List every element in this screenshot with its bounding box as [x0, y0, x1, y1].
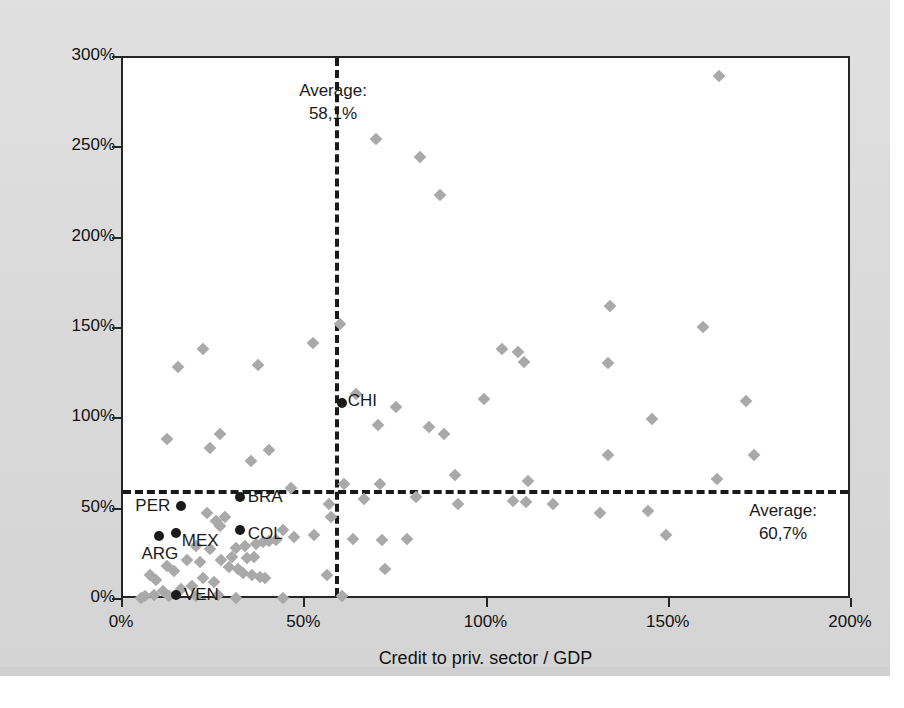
y-tick-mark: [112, 598, 121, 600]
x-tick-label: 50%: [286, 612, 320, 632]
x-tick-label: 100%: [464, 612, 507, 632]
x-tick-mark: [850, 598, 852, 607]
y-tick-mark: [112, 327, 121, 329]
data-point: [197, 342, 210, 355]
data-point: [521, 474, 534, 487]
scatter-chart: Stock mk cap / GDP 0%50%100%150%200%250%…: [0, 0, 904, 708]
data-point: [434, 189, 447, 202]
annotation-line-2: 60,7%: [723, 523, 843, 546]
data-point: [337, 478, 350, 491]
plot-area: CHIBRAPERCOLMEXARGVENAverage:58,1%Averag…: [123, 58, 848, 596]
data-point: [507, 494, 520, 507]
data-point: [346, 532, 359, 545]
x-tick-mark: [121, 598, 123, 607]
data-point: [160, 433, 173, 446]
x-tick-label: 150%: [646, 612, 689, 632]
data-point: [306, 337, 319, 350]
average-y-dashed-line: [123, 490, 848, 494]
chart-page: Stock mk cap / GDP 0%50%100%150%200%250%…: [0, 0, 904, 708]
data-point: [696, 321, 709, 334]
data-point: [603, 299, 616, 312]
data-point: [437, 427, 450, 440]
data-point-highlighted: [171, 528, 181, 538]
x-tick-label: 0%: [109, 612, 134, 632]
data-point: [321, 568, 334, 581]
data-point-label: CHI: [348, 391, 377, 411]
data-point: [401, 532, 414, 545]
data-point: [262, 444, 275, 457]
y-tick-mark: [112, 237, 121, 239]
data-point: [747, 449, 760, 462]
data-point: [180, 554, 193, 567]
data-point: [374, 478, 387, 491]
data-point: [423, 420, 436, 433]
data-point: [372, 418, 385, 431]
data-point: [390, 400, 403, 413]
y-tick-mark: [112, 56, 121, 58]
data-point: [452, 498, 465, 511]
data-point: [740, 395, 753, 408]
data-point: [601, 357, 614, 370]
data-point: [642, 505, 655, 518]
data-point: [496, 342, 509, 355]
data-point: [414, 151, 427, 164]
data-point: [171, 361, 184, 374]
y-tick-mark: [112, 417, 121, 419]
x-tick-mark: [303, 598, 305, 607]
data-point-label: BRA: [248, 487, 283, 507]
data-point: [213, 427, 226, 440]
data-point-label: ARG: [141, 544, 178, 564]
x-axis-label: Credit to priv. sector / GDP: [121, 648, 850, 669]
data-point-highlighted: [235, 525, 245, 535]
data-point-label: COL: [248, 524, 283, 544]
x-tick-mark: [486, 598, 488, 607]
average-y-annotation: Average:60,7%: [723, 500, 843, 546]
data-point: [251, 359, 264, 372]
y-tick-mark: [112, 146, 121, 148]
data-point: [288, 530, 301, 543]
annotation-line-1: Average:: [723, 500, 843, 523]
data-point: [711, 473, 724, 486]
data-point: [370, 133, 383, 146]
data-point-highlighted: [235, 492, 245, 502]
data-point-highlighted: [154, 531, 164, 541]
data-point-highlighted: [176, 501, 186, 511]
data-point: [244, 455, 257, 468]
y-tick-mark: [112, 508, 121, 510]
x-tick-label: 200%: [828, 612, 871, 632]
data-point: [477, 393, 490, 406]
data-point: [713, 70, 726, 83]
data-point: [645, 413, 658, 426]
data-point-label: PER: [135, 496, 170, 516]
data-point: [204, 442, 217, 455]
data-point-highlighted: [337, 398, 347, 408]
data-point: [547, 498, 560, 511]
plot-frame: CHIBRAPERCOLMEXARGVENAverage:58,1%Averag…: [121, 56, 850, 598]
x-tick-mark: [668, 598, 670, 607]
data-point: [375, 534, 388, 547]
annotation-line-2: 58,1%: [273, 103, 393, 126]
data-point: [448, 469, 461, 482]
data-point: [601, 449, 614, 462]
data-point: [594, 507, 607, 520]
data-point: [323, 498, 336, 511]
data-point: [357, 492, 370, 505]
data-point: [308, 529, 321, 542]
data-point: [379, 563, 392, 576]
average-x-annotation: Average:58,1%: [273, 80, 393, 126]
annotation-line-1: Average:: [273, 80, 393, 103]
data-point-label: MEX: [182, 531, 219, 551]
data-point-highlighted: [171, 590, 181, 600]
data-point: [519, 496, 532, 509]
data-point: [193, 556, 206, 569]
data-point: [660, 529, 673, 542]
data-point-label: VEN: [184, 585, 219, 605]
data-point: [518, 355, 531, 368]
